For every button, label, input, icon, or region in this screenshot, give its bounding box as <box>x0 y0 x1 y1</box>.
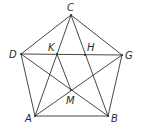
pentagon-diagram: C D G A B K H M <box>0 0 141 132</box>
point-label-b: B <box>111 113 118 124</box>
vertex-dot-b <box>107 115 109 117</box>
point-label-h: H <box>87 42 95 53</box>
vertex-dot-h <box>84 54 86 56</box>
segment-cb <box>71 15 108 116</box>
segment-bg <box>108 55 122 116</box>
point-label-d: D <box>9 49 17 60</box>
point-label-m: M <box>66 95 75 106</box>
vertex-dot-m <box>70 89 72 91</box>
point-label-c: C <box>67 2 74 13</box>
segment-cd <box>21 15 71 54</box>
segment-db <box>21 54 108 116</box>
point-label-a: A <box>24 113 32 124</box>
vertex-dot-k <box>56 53 58 55</box>
segment-ag <box>35 55 122 116</box>
segment-da <box>21 54 35 116</box>
labels-group: C D G A B K H M <box>9 2 133 124</box>
point-label-k: K <box>48 42 56 53</box>
vertex-dot-g <box>121 54 123 56</box>
point-label-g: G <box>125 50 133 61</box>
vertex-dot-c <box>70 14 72 16</box>
vertex-dot-d <box>20 53 22 55</box>
segment-dg <box>21 54 122 55</box>
vertex-dot-a <box>34 115 36 117</box>
